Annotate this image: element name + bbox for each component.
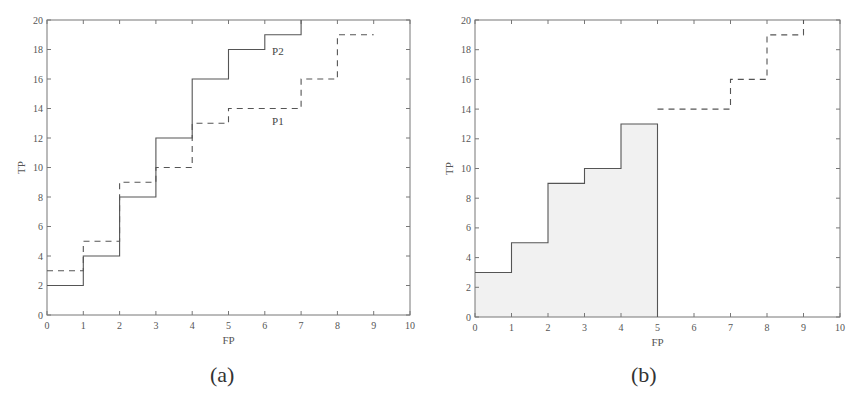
y-tick-label: 6 (38, 221, 43, 232)
y-axis-label: TP (443, 162, 455, 175)
y-tick-label: 0 (466, 312, 471, 323)
x-axis-label: FP (222, 334, 234, 346)
y-tick-label: 16 (461, 74, 471, 85)
x-tick-label: 5 (655, 322, 660, 333)
x-tick-label: 7 (728, 322, 733, 333)
y-tick-label: 12 (33, 133, 43, 144)
caption-b: (b) (631, 362, 657, 388)
y-tick-label: 2 (466, 282, 471, 293)
x-tick-label: 9 (801, 322, 806, 333)
x-tick-label: 0 (473, 322, 478, 333)
x-tick-label: 3 (582, 322, 587, 333)
x-tick-label: 4 (190, 320, 195, 331)
x-tick-label: 1 (81, 320, 86, 331)
x-tick-label: 5 (226, 320, 231, 331)
x-tick-label: 8 (765, 322, 770, 333)
y-tick-label: 10 (33, 162, 43, 173)
y-tick-label: 16 (33, 74, 43, 85)
series-p2-line (47, 20, 301, 286)
figure-canvas: 01234567891002468101214161820FPTPP2P1012… (0, 0, 855, 396)
series-p1-line (47, 35, 374, 271)
y-tick-label: 12 (461, 133, 471, 144)
y-tick-label: 4 (38, 251, 43, 262)
y-tick-label: 14 (461, 104, 471, 115)
series-dashed-line (658, 20, 804, 109)
series-label-p1: P1 (272, 115, 284, 127)
x-tick-label: 9 (371, 320, 376, 331)
x-tick-label: 2 (117, 320, 122, 331)
y-tick-label: 8 (466, 193, 471, 204)
y-tick-label: 14 (33, 103, 43, 114)
x-tick-label: 6 (692, 322, 697, 333)
caption-a: (a) (210, 362, 234, 388)
x-tick-label: 0 (45, 320, 50, 331)
y-axis-label: TP (15, 161, 27, 174)
x-tick-label: 3 (153, 320, 158, 331)
y-tick-label: 0 (38, 310, 43, 321)
x-axis-label: FP (651, 336, 663, 348)
x-tick-label: 8 (335, 320, 340, 331)
chart-a: 01234567891002468101214161820FPTPP2P1 (15, 15, 415, 347)
x-tick-label: 4 (619, 322, 624, 333)
x-tick-label: 7 (299, 320, 304, 331)
shaded-area (475, 124, 658, 317)
x-tick-label: 10 (405, 320, 415, 331)
x-tick-label: 10 (835, 322, 845, 333)
series-label-p2: P2 (272, 45, 284, 57)
y-tick-label: 10 (461, 163, 471, 174)
x-tick-label: 2 (546, 322, 551, 333)
y-tick-label: 20 (461, 15, 471, 26)
y-tick-label: 20 (33, 15, 43, 26)
y-tick-label: 8 (38, 192, 43, 203)
y-tick-label: 2 (38, 280, 43, 291)
y-tick-label: 18 (33, 44, 43, 55)
chart-b: 01234567891002468101214161820FPTP (443, 15, 845, 349)
y-tick-label: 4 (466, 252, 471, 263)
x-tick-label: 1 (509, 322, 514, 333)
y-tick-label: 6 (466, 222, 471, 233)
x-tick-label: 6 (262, 320, 267, 331)
y-tick-label: 18 (461, 44, 471, 55)
